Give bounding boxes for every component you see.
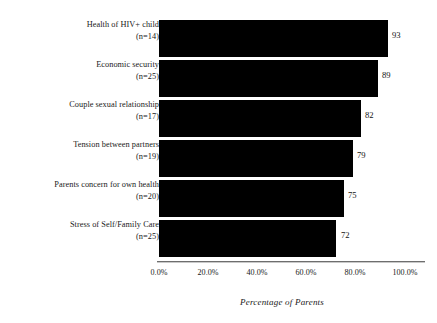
bar-1 [159,60,378,97]
bar-value-1: 89 [382,70,391,80]
category-label-0: Health of HIV+ child (n=14) [0,19,159,42]
category-label-3-count: (n=19) [0,151,159,163]
category-label-1: Economic security (n=25) [0,59,159,82]
bar-4 [159,180,344,217]
category-label-5-text: Stress of Self/Family Care [70,220,159,229]
bar-value-3: 79 [357,150,366,160]
category-label-2-count: (n=17) [0,111,159,123]
x-tick-100: 100.0% [375,267,435,278]
bar-0 [159,20,388,57]
table-row: Economic security (n=25) 89 [0,59,437,99]
category-label-2-text: Couple sexual relationship [69,100,159,109]
bar-chart: Health of HIV+ child (n=14) 93 Economic … [0,0,437,323]
category-label-5-count: (n=25) [0,231,159,243]
category-label-3-text: Tension between partners [73,140,159,149]
bar-3 [159,140,353,177]
x-axis-title: Percentage of Parents [159,297,405,307]
category-label-5: Stress of Self/Family Care (n=25) [0,219,159,242]
category-label-4: Parents concern for own health (n=20) [0,179,159,202]
category-label-1-text: Economic security [96,60,159,69]
category-label-0-text: Health of HIV+ child [87,20,159,29]
category-label-1-count: (n=25) [0,71,159,83]
x-axis-line-shadow [157,262,425,263]
bar-value-2: 82 [365,110,374,120]
category-label-4-count: (n=20) [0,191,159,203]
category-label-3: Tension between partners (n=19) [0,139,159,162]
plot-area: Health of HIV+ child (n=14) 93 Economic … [0,0,437,263]
category-label-2: Couple sexual relationship (n=17) [0,99,159,122]
category-label-4-text: Parents concern for own health [54,180,159,189]
bar-2 [159,100,361,137]
table-row: Tension between partners (n=19) 79 [0,139,437,179]
bar-value-5: 72 [341,230,350,240]
table-row: Couple sexual relationship (n=17) 82 [0,99,437,139]
table-row: Parents concern for own health (n=20) 75 [0,179,437,219]
bar-value-0: 93 [392,30,401,40]
category-label-0-count: (n=14) [0,31,159,43]
table-row: Stress of Self/Family Care (n=25) 72 [0,219,437,259]
bar-value-4: 75 [348,190,357,200]
bar-5 [159,220,336,257]
x-axis-tick-labels: 0.0% 20.0% 40.0% 60.0% 80.0% 100.0% [0,267,437,281]
table-row: Health of HIV+ child (n=14) 93 [0,19,437,59]
